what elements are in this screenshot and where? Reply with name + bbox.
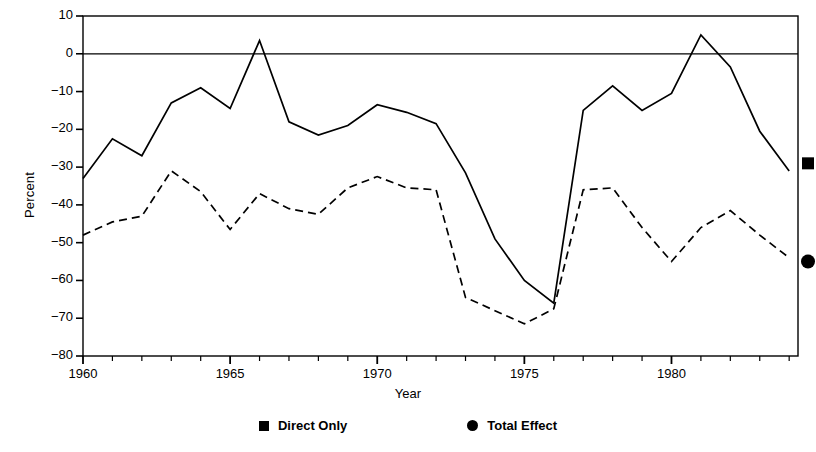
y-tick-label: −80: [15, 347, 73, 362]
y-tick-label: 0: [15, 45, 73, 60]
x-axis-label: Year: [0, 386, 816, 401]
end-marker-square: [802, 157, 814, 169]
y-tick-label: −70: [15, 309, 73, 324]
x-tick-label: 1980: [631, 366, 711, 381]
y-tick-label: −50: [15, 234, 73, 249]
series-line-total-effect: [83, 171, 789, 324]
end-marker-circle: [801, 255, 815, 269]
plot-area: [0, 0, 816, 452]
y-tick-label: −10: [15, 83, 73, 98]
y-tick-label: −40: [15, 196, 73, 211]
plot-frame: [83, 16, 798, 356]
circle-marker-icon: [467, 420, 478, 431]
chart-legend: Direct Only Total Effect: [0, 418, 816, 433]
square-marker-icon: [259, 421, 269, 431]
x-tick-label: 1960: [43, 366, 123, 381]
legend-entry-total-effect: Total Effect: [467, 418, 557, 433]
legend-entry-direct-only: Direct Only: [259, 418, 347, 433]
x-tick-label: 1970: [337, 366, 417, 381]
x-tick-label: 1975: [484, 366, 564, 381]
y-tick-label: −60: [15, 271, 73, 286]
x-tick-label: 1965: [190, 366, 270, 381]
y-tick-label: −30: [15, 158, 73, 173]
legend-label-total-effect: Total Effect: [487, 418, 557, 433]
series-line-direct-only: [83, 35, 789, 303]
legend-label-direct-only: Direct Only: [278, 418, 347, 433]
chart-figure: Percent Year 100−10−20−30−40−50−60−70−80…: [0, 0, 816, 452]
y-tick-label: 10: [15, 7, 73, 22]
y-tick-label: −20: [15, 120, 73, 135]
